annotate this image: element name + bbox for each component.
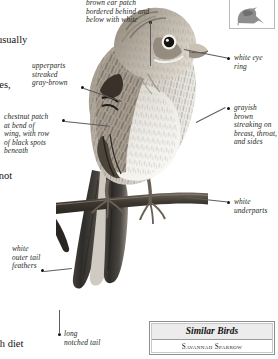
bird-eye	[162, 35, 177, 50]
callout-grayish-brown-streaking: grayish brown streaking on breast, throa…	[234, 104, 278, 147]
bird-illustration	[56, 0, 208, 294]
callout-long-notched-tail: long notched tail	[64, 330, 120, 347]
callout-ear-patch: brown ear patch bordered behind and belo…	[86, 0, 186, 25]
similar-birds-panel: Similar Birds Savannah Sparrow	[149, 321, 275, 355]
bird-tail	[73, 166, 128, 289]
similar-birds-title: Similar Birds	[152, 324, 272, 340]
body-text-bottom-fragment: ough diet	[0, 337, 64, 351]
callout-upperparts: upperparts streaked gray-brown	[32, 62, 94, 88]
callout-white-eye-ring: white eye ring	[234, 54, 278, 71]
body-text-line: able	[0, 304, 66, 319]
callout-chestnut-patch: chestnut patch at bend of wing, with row…	[4, 113, 70, 156]
callout-white-outer-tail-feathers: white outer tail feathers	[12, 245, 70, 271]
similar-birds-inner-frame: Similar Birds Savannah Sparrow	[151, 323, 273, 353]
callout-dot-grayish-brown-streaking	[227, 107, 230, 110]
perched-bird-silhouette-icon	[233, 2, 267, 26]
callout-white-underparts: white underparts	[234, 198, 278, 215]
callout-dot-white-eye-ring	[227, 57, 230, 60]
callout-leader-ear-patch	[150, 22, 151, 66]
callout-leader-long-notched-tail	[59, 310, 60, 334]
silhouette-thumbnail-box	[229, 0, 275, 29]
similar-birds-species-entry[interactable]: Savannah Sparrow	[152, 340, 272, 351]
